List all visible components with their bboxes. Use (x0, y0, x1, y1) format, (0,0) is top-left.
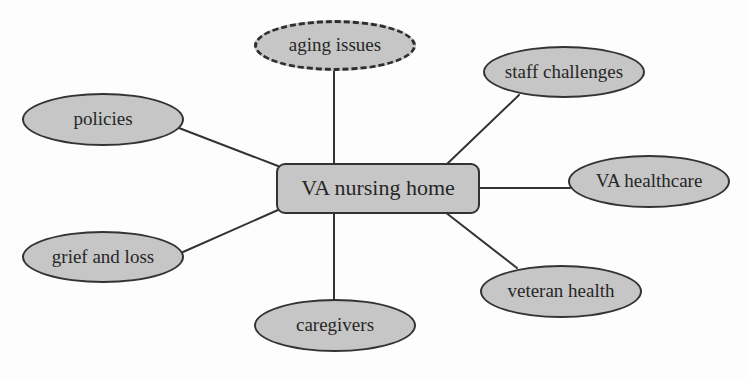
node-veteran-health: veteran health (480, 265, 642, 318)
edge-center-veteran-health (445, 212, 517, 268)
node-label: VA nursing home (301, 177, 455, 199)
node-label: aging issues (289, 35, 381, 54)
node-va-nursing-home: VA nursing home (276, 163, 480, 214)
node-label: staff challenges (505, 62, 623, 81)
edge-center-policies (179, 128, 278, 166)
concept-map-diagram: aging issues staff challenges policies V… (0, 0, 749, 379)
node-staff-challenges: staff challenges (483, 46, 645, 98)
node-policies: policies (22, 93, 184, 146)
node-label: VA healthcare (596, 171, 703, 190)
node-caregivers: caregivers (254, 299, 416, 352)
node-label: veteran health (507, 281, 614, 300)
node-grief-and-loss: grief and loss (22, 231, 184, 283)
node-label: policies (73, 109, 132, 128)
node-label: grief and loss (52, 247, 154, 266)
edge-center-grief-and-loss (183, 210, 278, 252)
edge-center-staff-challenges (447, 95, 519, 164)
node-va-healthcare: VA healthcare (568, 155, 730, 208)
node-aging-issues: aging issues (254, 20, 416, 71)
node-label: caregivers (296, 315, 374, 334)
